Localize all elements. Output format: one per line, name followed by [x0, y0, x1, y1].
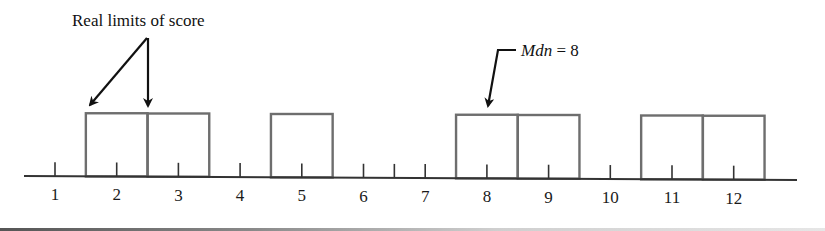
tick-label-3: 3 [174, 187, 183, 204]
real-limits-label: Real limits of score [72, 12, 205, 29]
tick-label-5: 5 [298, 187, 307, 204]
tick-label-12: 12 [725, 190, 742, 207]
tick-label-1: 1 [51, 186, 60, 203]
median-arrow-line [488, 50, 516, 106]
tick-label-10: 10 [602, 189, 619, 206]
median-label: Mdn = 8 [521, 42, 579, 59]
x-axis-line [24, 176, 797, 180]
number-line-diagram [0, 0, 825, 231]
arrow-to-lower-real-limit [90, 38, 147, 105]
bottom-rule-divider [0, 228, 825, 231]
tick-label-2: 2 [112, 186, 121, 203]
median-label-value: = 8 [552, 41, 579, 60]
tick-label-6: 6 [359, 188, 368, 205]
tick-label-4: 4 [236, 187, 245, 204]
score-distribution-figure: Real limits of score Mdn = 8 12345678910… [0, 0, 825, 231]
tick-label-9: 9 [544, 189, 553, 206]
real-limits-arrows [90, 38, 148, 106]
tick-label-11: 11 [664, 189, 680, 206]
median-arrow [488, 50, 516, 106]
tick-label-7: 7 [421, 188, 430, 205]
median-label-mdn: Mdn [521, 41, 552, 60]
tick-label-8: 8 [483, 188, 492, 205]
